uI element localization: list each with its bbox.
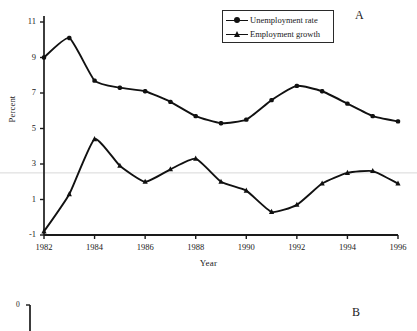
panel-a: Percent Year -11357911 19821984198619881…	[0, 0, 417, 280]
x-axis-label: Year	[0, 258, 417, 268]
panel-b: 0 B	[0, 280, 417, 331]
y-tick-label: 1	[10, 194, 36, 204]
x-tick-label: 1982	[23, 242, 65, 252]
legend-label-unemployment-rate: Unemployment rate	[250, 15, 318, 25]
x-tick-label: 1996	[377, 242, 417, 252]
y-tick-label: 9	[10, 52, 36, 62]
x-tick-label: 1986	[124, 242, 166, 252]
series-employment-growth	[41, 136, 400, 233]
x-tick-label: 1992	[276, 242, 318, 252]
y-tick-label: -1	[10, 229, 36, 239]
x-tick-label: 1994	[326, 242, 368, 252]
y-tick-label: 7	[10, 87, 36, 97]
y-tick-label: 5	[10, 123, 36, 133]
y-tick-label: 11	[10, 16, 36, 26]
legend-label-employment-growth: Employment growth	[250, 29, 320, 39]
x-tick-label: 1990	[225, 242, 267, 252]
chart-plot-area	[0, 0, 417, 280]
panel-a-tag: A	[355, 8, 364, 23]
chart-legend: Unemployment rate Employment growth	[222, 10, 334, 43]
legend-marker-triangle-icon	[226, 28, 248, 40]
panel-b-y-ticklabel: 0	[16, 300, 20, 309]
panel-b-tag: B	[352, 305, 361, 320]
legend-item-unemployment-rate: Unemployment rate	[226, 13, 330, 27]
y-tick-label: 3	[10, 158, 36, 168]
legend-item-employment-growth: Employment growth	[226, 27, 330, 41]
figure-root: Percent Year -11357911 19821984198619881…	[0, 0, 417, 331]
legend-marker-circle-icon	[226, 14, 248, 26]
x-tick-label: 1988	[175, 242, 217, 252]
series-unemployment-rate	[42, 36, 400, 126]
x-tick-label: 1984	[74, 242, 116, 252]
